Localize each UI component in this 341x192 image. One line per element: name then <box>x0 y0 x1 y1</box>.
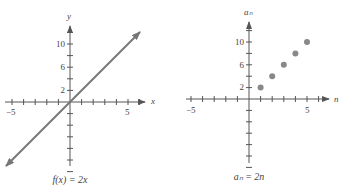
right-y-axis <box>246 22 252 167</box>
right-y-tick-2: 2 <box>240 82 245 92</box>
right-chart: −5 5 2 6 10 n aₙ aₙ = 2n <box>186 7 339 182</box>
figure: −5 5 2 6 10 x y f(x) = 2x −5 5 2 6 10 n … <box>0 0 341 192</box>
left-y-tick-2: 2 <box>61 85 66 95</box>
right-y-tick-10: 10 <box>235 37 245 47</box>
left-x-tick-neg5: −5 <box>6 107 16 117</box>
right-caption: aₙ = 2n <box>234 171 265 182</box>
left-chart: −5 5 2 6 10 x y f(x) = 2x <box>5 11 155 186</box>
data-point <box>281 62 287 68</box>
right-x-axis <box>186 96 329 102</box>
right-y-axis-label: aₙ <box>244 7 253 17</box>
left-y-axis-label: y <box>66 11 71 21</box>
data-point <box>258 85 264 91</box>
right-y-tick-6: 6 <box>240 60 245 70</box>
left-x-tick-5: 5 <box>125 107 130 117</box>
right-x-tick-5: 5 <box>305 105 310 115</box>
left-x-axis <box>5 99 145 105</box>
line-f-of-x-neg <box>6 102 70 166</box>
data-point <box>269 73 275 79</box>
left-caption: f(x) = 2x <box>52 174 88 186</box>
scatter-points <box>258 39 310 91</box>
right-x-axis-label: n <box>334 94 339 104</box>
left-x-axis-label: x <box>150 96 155 106</box>
left-y-tick-6: 6 <box>61 62 66 72</box>
right-x-tick-neg5: −5 <box>186 105 196 115</box>
data-point <box>292 50 298 56</box>
data-point <box>304 39 310 45</box>
line-f-of-x <box>70 32 140 102</box>
left-y-tick-10: 10 <box>56 39 66 49</box>
